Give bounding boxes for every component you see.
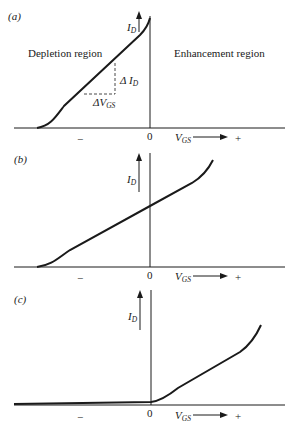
panel-c: (c) ID − 0 VGS + [14,290,285,423]
delta-vgs-label: ΔVGS [92,96,116,110]
zero-label: 0 [147,130,153,142]
mosfet-transfer-characteristics-figure: (a) ID Δ ID ΔVGS Depletion region Enhanc… [0,0,300,437]
plus-sign: + [235,271,241,283]
plus-sign: + [235,410,241,422]
minus-sign: − [77,133,83,145]
x-axis-label: VGS [175,270,191,284]
panel-label: (c) [14,293,27,306]
panel-label: (a) [8,10,21,23]
transfer-curve [37,160,213,267]
y-axis-label: ID [126,21,137,35]
zero-label: 0 [147,269,153,281]
transfer-curve [14,325,261,404]
x-axis-label: VGS [175,409,191,423]
panel-a: (a) ID Δ ID ΔVGS Depletion region Enhanc… [8,10,285,145]
depletion-region-label: Depletion region [28,47,103,59]
minus-sign: − [77,272,83,284]
zero-label: 0 [147,407,153,419]
panel-b: (b) ID − 0 VGS + [14,153,285,284]
delta-id-label: Δ ID [119,74,139,88]
y-axis-label: ID [127,310,138,324]
minus-sign: − [77,411,83,423]
enhancement-region-label: Enhancement region [174,47,265,59]
plus-sign: + [235,132,241,144]
x-axis-label: VGS [175,131,191,145]
panel-label: (b) [14,153,27,166]
y-axis-label: ID [126,173,137,187]
